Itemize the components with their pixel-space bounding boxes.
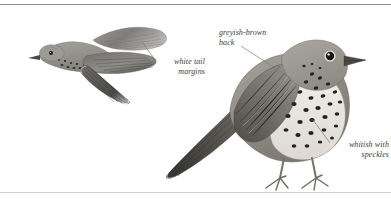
annotation-greyish-brown-back: greyish-brown back — [219, 28, 295, 47]
leader-line-greyish-brown-back — [238, 43, 296, 83]
top-divider-rule — [0, 4, 391, 5]
illustration-plate: white tail margins — [0, 0, 391, 198]
annotation-whitish-with-speckles: whitish with speckles — [331, 140, 389, 159]
